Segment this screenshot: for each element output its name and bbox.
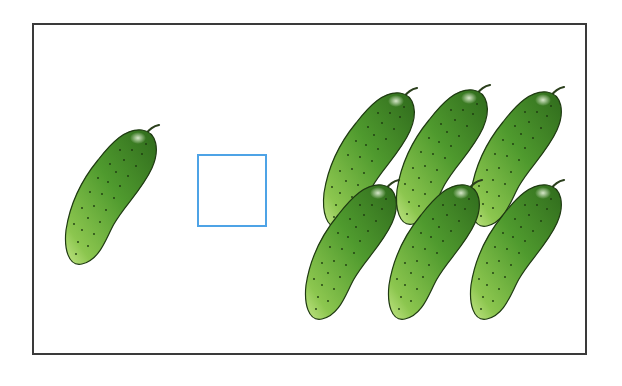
cucumber-icon — [467, 175, 567, 323]
cucumber-icon — [62, 120, 162, 268]
cucumber-left — [62, 120, 162, 268]
cucumber-right-6 — [467, 175, 567, 323]
answer-box[interactable] — [197, 154, 267, 227]
